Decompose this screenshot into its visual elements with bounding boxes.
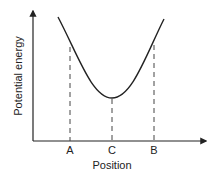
potential-energy-diagram: A C B Position Potential energy xyxy=(0,0,218,177)
point-label-c: C xyxy=(108,144,116,156)
y-axis-label: Potential energy xyxy=(12,36,24,116)
point-label-a: A xyxy=(66,144,74,156)
point-label-b: B xyxy=(150,144,157,156)
potential-energy-curve xyxy=(58,17,164,98)
x-axis-label: Position xyxy=(92,159,131,171)
